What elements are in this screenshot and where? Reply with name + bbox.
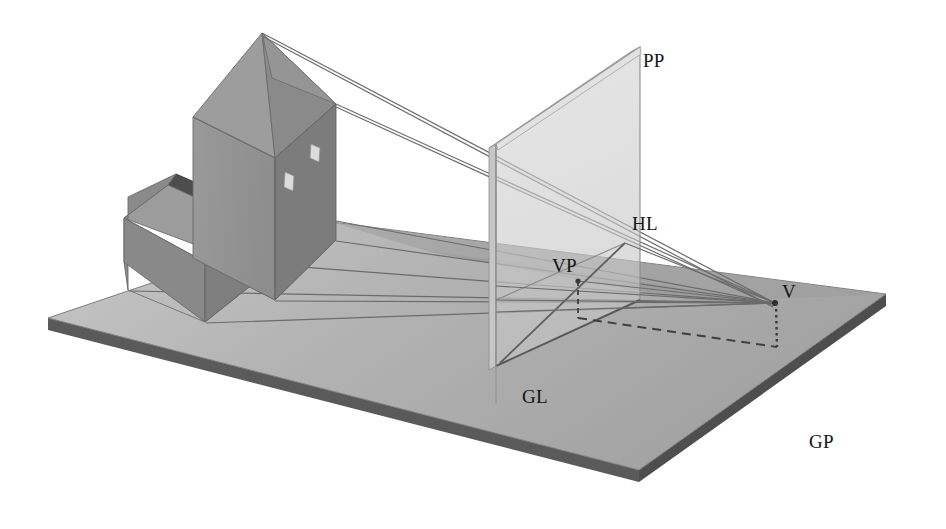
label-gl: GL <box>522 386 548 407</box>
label-gp: GP <box>809 431 834 452</box>
label-hl: HL <box>632 213 658 234</box>
tower-group <box>193 33 336 300</box>
label-v: V <box>782 281 796 302</box>
picture-plane-left-edge <box>489 144 496 370</box>
label-vp: VP <box>552 255 577 276</box>
perspective-scene-svg: PP HL VP V GL GP <box>0 0 946 529</box>
label-pp: PP <box>643 50 665 71</box>
perspective-diagram-root: PP HL VP V GL GP <box>0 0 946 529</box>
